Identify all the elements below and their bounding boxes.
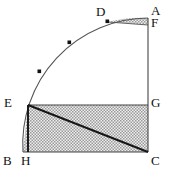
vertex-label-e: E bbox=[4, 96, 12, 109]
vertex-label-b: B bbox=[3, 154, 12, 167]
figure-canvas bbox=[0, 0, 173, 172]
arc-marker-dot bbox=[38, 70, 42, 74]
arc-marker-dot bbox=[106, 20, 110, 24]
vertex-label-d: D bbox=[96, 5, 105, 18]
arc-marker-dot bbox=[68, 41, 72, 45]
vertex-label-g: G bbox=[151, 96, 160, 109]
vertex-label-c: C bbox=[151, 154, 160, 167]
vertex-label-h: H bbox=[21, 154, 30, 167]
geometry-figure: A F D E G B H C bbox=[0, 0, 173, 172]
vertex-label-f: F bbox=[151, 16, 158, 29]
